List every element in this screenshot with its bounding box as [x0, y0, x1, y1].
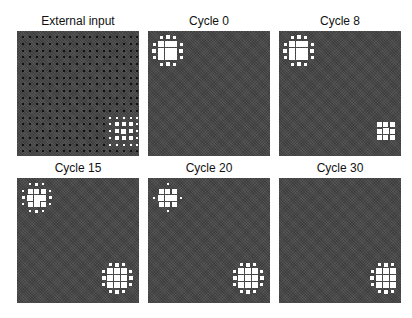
input-dot — [116, 56, 118, 58]
input-dot — [76, 150, 78, 152]
active-unit — [260, 270, 263, 273]
active-unit — [129, 270, 132, 273]
panel-title: Cycle 15 — [17, 161, 139, 175]
active-unit — [260, 276, 264, 280]
active-unit — [165, 189, 170, 194]
active-unit — [291, 63, 294, 66]
input-dot — [116, 36, 118, 38]
input-dot — [42, 103, 44, 105]
active-unit — [371, 283, 374, 286]
input-dot — [36, 137, 38, 139]
input-dot — [63, 137, 65, 139]
active-unit — [129, 283, 132, 286]
input-dot — [29, 123, 31, 125]
input-dot — [83, 110, 85, 112]
input-dot — [130, 97, 132, 99]
input-dot — [56, 70, 58, 72]
input-dot — [136, 83, 138, 85]
input-dot — [76, 144, 78, 146]
input-dot — [76, 50, 78, 52]
input-dot — [76, 43, 78, 45]
active-unit — [130, 117, 132, 119]
active-unit — [260, 283, 263, 286]
input-dot — [49, 117, 51, 119]
active-unit — [22, 196, 25, 199]
active-unit — [22, 203, 24, 205]
input-dot — [83, 130, 85, 132]
active-unit — [302, 54, 308, 60]
input-dot — [22, 137, 24, 139]
input-dot — [36, 77, 38, 79]
active-unit — [310, 49, 314, 53]
active-unit — [376, 282, 382, 288]
input-dot — [63, 123, 65, 125]
input-dot — [49, 70, 51, 72]
panel-canvas — [148, 31, 270, 156]
input-dot — [36, 150, 38, 152]
active-unit — [136, 137, 138, 139]
input-dot — [89, 56, 91, 58]
input-dot — [29, 137, 31, 139]
active-unit — [180, 197, 182, 199]
input-dot — [63, 70, 65, 72]
active-unit — [304, 63, 307, 66]
input-dot — [36, 43, 38, 45]
input-dot — [116, 83, 118, 85]
active-unit — [296, 54, 302, 60]
active-unit — [123, 117, 125, 119]
input-dot — [49, 103, 51, 105]
input-dot — [29, 70, 31, 72]
input-dot — [36, 117, 38, 119]
active-unit — [289, 41, 295, 47]
input-dot — [109, 150, 111, 152]
active-unit — [246, 290, 250, 294]
input-dot — [89, 77, 91, 79]
input-dot — [56, 43, 58, 45]
input-dot — [89, 97, 91, 99]
panel-title: Cycle 8 — [279, 14, 401, 28]
input-dot — [36, 83, 38, 85]
input-dot — [56, 130, 58, 132]
active-unit — [378, 290, 381, 293]
input-dot — [63, 63, 65, 65]
input-dot — [56, 103, 58, 105]
active-unit — [377, 122, 382, 127]
active-unit — [238, 282, 244, 288]
active-unit — [159, 189, 164, 194]
input-dot — [130, 83, 132, 85]
input-dot — [63, 117, 65, 119]
input-dot — [136, 36, 138, 38]
active-unit — [378, 263, 381, 266]
panel-canvas — [279, 178, 401, 303]
input-dot — [89, 117, 91, 119]
input-dot — [49, 56, 51, 58]
input-dot — [22, 150, 24, 152]
input-dot — [42, 50, 44, 52]
input-dot — [130, 70, 132, 72]
input-dot — [69, 117, 71, 119]
input-dot — [89, 70, 91, 72]
input-dot — [123, 36, 125, 38]
active-unit — [115, 136, 119, 140]
input-dot — [83, 36, 85, 38]
active-unit — [109, 117, 111, 119]
input-dot — [76, 56, 78, 58]
input-dot — [22, 43, 24, 45]
input-dot — [103, 83, 105, 85]
input-dot — [69, 63, 71, 65]
input-dot — [76, 63, 78, 65]
input-dot — [116, 103, 118, 105]
input-dot — [56, 123, 58, 125]
input-dot — [29, 36, 31, 38]
input-dot — [42, 77, 44, 79]
active-unit — [121, 275, 127, 281]
input-dot — [83, 97, 85, 99]
input-dot — [49, 130, 51, 132]
active-unit — [171, 48, 177, 54]
input-dot — [103, 36, 105, 38]
active-unit — [383, 122, 388, 127]
input-dot — [96, 123, 98, 125]
active-unit — [297, 35, 301, 39]
input-dot — [89, 144, 91, 146]
input-dot — [83, 56, 85, 58]
